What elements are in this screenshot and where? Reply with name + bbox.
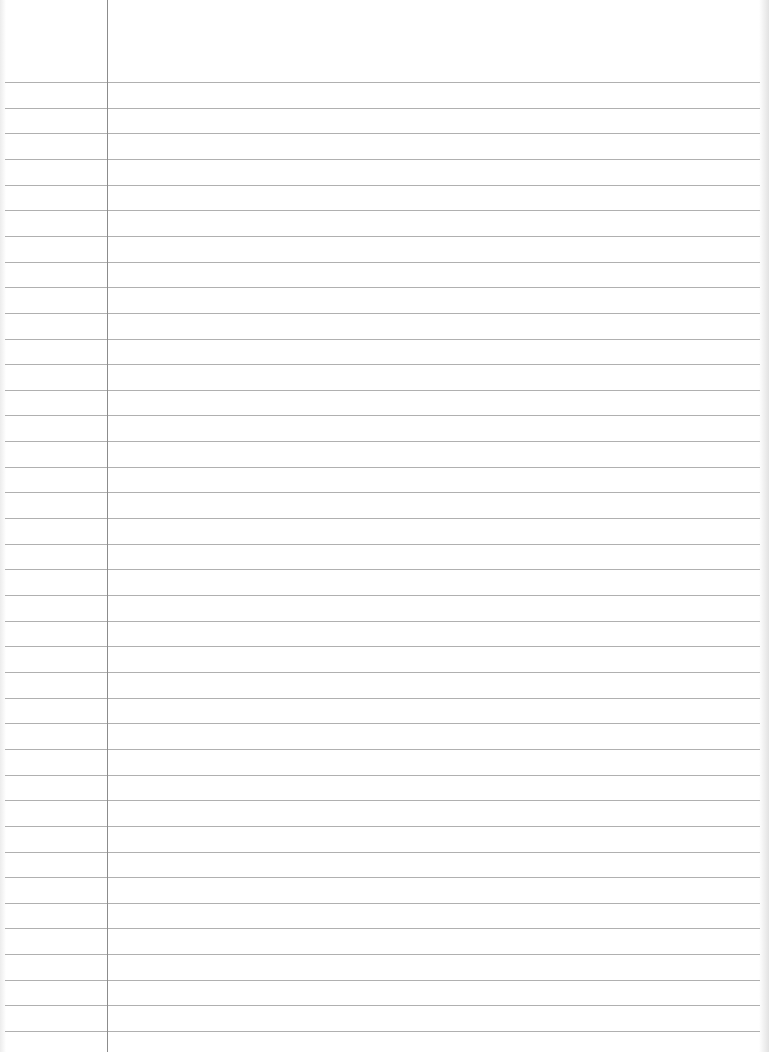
- rule-line: [5, 133, 760, 134]
- rule-line: [5, 595, 760, 596]
- rule-line: [5, 82, 760, 83]
- rule-line: [5, 108, 760, 109]
- rule-line: [5, 928, 760, 929]
- rule-line: [5, 236, 760, 237]
- rule-line: [5, 1005, 760, 1006]
- rule-line: [5, 518, 760, 519]
- rule-line: [5, 492, 760, 493]
- rule-line: [5, 544, 760, 545]
- rule-line: [5, 852, 760, 853]
- vertical-margin-line: [107, 0, 108, 1052]
- rule-line: [5, 313, 760, 314]
- rule-line: [5, 749, 760, 750]
- lined-paper-sheet: [0, 0, 769, 1052]
- rule-line: [5, 364, 760, 365]
- rule-line: [5, 287, 760, 288]
- rule-line: [5, 672, 760, 673]
- rule-line: [5, 159, 760, 160]
- rule-line: [5, 954, 760, 955]
- rule-line: [5, 826, 760, 827]
- rule-line: [5, 262, 760, 263]
- rule-line: [5, 980, 760, 981]
- rule-line: [5, 1031, 760, 1032]
- rule-line: [5, 185, 760, 186]
- rule-line: [5, 800, 760, 801]
- rule-line: [5, 569, 760, 570]
- rule-line: [5, 698, 760, 699]
- rule-line: [5, 877, 760, 878]
- rule-line: [5, 646, 760, 647]
- rule-line: [5, 723, 760, 724]
- rule-line: [5, 467, 760, 468]
- rule-line: [5, 339, 760, 340]
- rule-line: [5, 390, 760, 391]
- rule-line: [5, 210, 760, 211]
- horizontal-rule-lines: [0, 0, 769, 1052]
- rule-line: [5, 903, 760, 904]
- rule-line: [5, 441, 760, 442]
- rule-line: [5, 621, 760, 622]
- rule-line: [5, 415, 760, 416]
- rule-line: [5, 775, 760, 776]
